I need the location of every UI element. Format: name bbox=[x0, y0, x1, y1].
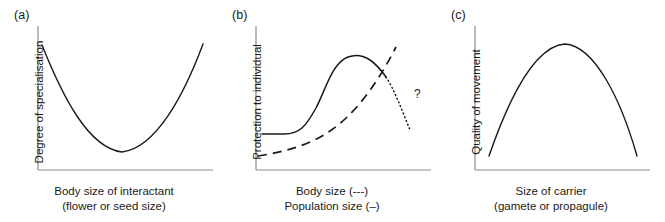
panel-b-question-mark-annotation: ? bbox=[414, 88, 421, 100]
panel-b: (b) Protection to individual ? Body size… bbox=[218, 0, 440, 222]
figure-container: (a) Degree of specialisation Body size o… bbox=[0, 0, 665, 222]
panel-b-curve-uncertain-dotted bbox=[386, 77, 410, 130]
panel-b-curve-population-size-solid bbox=[262, 55, 386, 134]
panel-a: (a) Degree of specialisation Body size o… bbox=[0, 0, 222, 222]
panel-c-curve-quality-of-movement bbox=[489, 44, 637, 156]
panel-c: (c) Quality of movement Size of carrier … bbox=[437, 0, 659, 222]
panel-a-curve-degree-of-specialisation bbox=[42, 44, 203, 152]
panel-a-y-axis-label: Degree of specialisation bbox=[30, 28, 48, 176]
panel-c-y-axis-label: Quality of movement bbox=[467, 32, 485, 172]
panel-c-x-axis-label-line1: Size of carrier bbox=[451, 184, 651, 199]
panel-b-y-axis-label: Protection to individual bbox=[248, 32, 266, 172]
panel-c-x-axis-caption: Size of carrier (gamete or propagule) bbox=[451, 184, 651, 213]
panel-a-x-axis-label-line1: Body size of interactant bbox=[14, 184, 214, 199]
panel-b-x-axis-label-line2: Population size (–) bbox=[232, 199, 432, 214]
panel-a-x-axis-label-line2: (flower or seed size) bbox=[14, 199, 214, 214]
panel-a-x-axis-caption: Body size of interactant (flower or seed… bbox=[14, 184, 214, 213]
panel-b-x-axis-caption: Body size (---) Population size (–) bbox=[232, 184, 432, 213]
panel-c-x-axis-label-line2: (gamete or propagule) bbox=[451, 199, 651, 214]
panel-b-x-axis-label-line1: Body size (---) bbox=[232, 184, 432, 199]
